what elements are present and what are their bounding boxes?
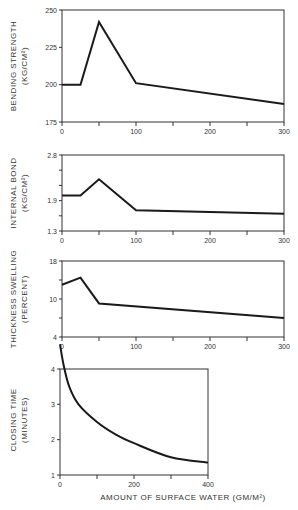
y-tick-label: 2 — [51, 436, 55, 443]
y-axis-unit: (PERCENT) — [20, 275, 29, 323]
x-tick-label: 100 — [130, 237, 142, 244]
x-tick-label: 0 — [58, 481, 62, 488]
x-tick-label: 100 — [130, 343, 142, 350]
x-tick-label: 300 — [278, 343, 290, 350]
figure: BENDING STRENGTH (KG/CM²) 17520022525001… — [0, 0, 298, 510]
x-tick-label: 200 — [204, 237, 216, 244]
y-tick-label: 250 — [45, 7, 57, 14]
y-axis-unit: (KG/CM²) — [20, 174, 29, 212]
y-tick-label: 10 — [49, 296, 57, 303]
y-axis-title: THICKNESS SWELLING — [9, 250, 18, 348]
y-tick-label: 4 — [51, 366, 55, 373]
y-tick-label: 1 — [51, 472, 55, 479]
x-tick-label: 300 — [278, 237, 290, 244]
panel-closing-time: CLOSING TIME (MINUTES) 12340200400 AMOUN… — [9, 344, 266, 502]
y-tick-label: 175 — [45, 119, 57, 126]
y-axis-title: BENDING STRENGTH — [9, 21, 18, 112]
data-series-line — [62, 179, 284, 213]
y-tick-label: 200 — [45, 81, 57, 88]
plot-area: 1752002252500100200300 — [45, 7, 290, 136]
data-series-line — [62, 278, 284, 318]
x-tick-label: 0 — [60, 237, 64, 244]
x-tick-label: 100 — [130, 128, 142, 135]
x-tick-label: 200 — [128, 481, 140, 488]
y-axis-title: INTERNAL BOND — [9, 157, 18, 228]
y-tick-label: 225 — [45, 44, 57, 51]
y-axis-unit: (MINUTES) — [20, 397, 29, 443]
plot-frame — [62, 155, 284, 231]
y-tick-label: 1.3 — [47, 228, 57, 235]
panel-thickness-swelling: THICKNESS SWELLING (PERCENT) 41018010020… — [9, 250, 290, 350]
plot-area: 410180100200300 — [49, 258, 290, 351]
plot-area: 1.31.92.80100200300 — [47, 152, 290, 245]
panel-bending-strength: BENDING STRENGTH (KG/CM²) 17520022525001… — [9, 7, 290, 136]
x-axis-title: AMOUNT OF SURFACE WATER (GM/M²) — [100, 493, 266, 502]
y-tick-label: 4 — [53, 334, 57, 341]
x-tick-label: 400 — [202, 481, 214, 488]
x-tick-label: 200 — [204, 128, 216, 135]
x-tick-label: 200 — [204, 343, 216, 350]
y-tick-label: 3 — [51, 401, 55, 408]
panel-internal-bond: INTERNAL BOND (KG/CM²) 1.31.92.801002003… — [9, 152, 290, 245]
data-series-line — [60, 344, 208, 462]
x-tick-label: 300 — [278, 128, 290, 135]
y-axis-unit: (KG/CM²) — [20, 47, 29, 85]
y-tick-label: 2.8 — [47, 152, 57, 159]
y-tick-label: 1.9 — [47, 197, 57, 204]
y-axis-title: CLOSING TIME — [9, 388, 18, 451]
plot-frame — [62, 10, 284, 122]
data-series-line — [62, 22, 284, 104]
plot-area: 12340200400 — [51, 344, 214, 488]
y-tick-label: 18 — [49, 258, 57, 265]
x-tick-label: 0 — [60, 128, 64, 135]
